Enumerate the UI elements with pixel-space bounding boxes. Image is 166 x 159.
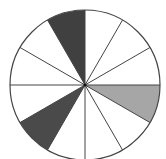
fraction-circle <box>0 0 166 159</box>
sector-dark-lower-left <box>20 85 85 150</box>
center-dot <box>83 83 86 86</box>
shaded-sectors <box>20 10 160 150</box>
